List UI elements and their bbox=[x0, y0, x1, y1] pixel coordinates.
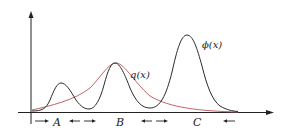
arrow-left-icon bbox=[223, 119, 235, 122]
arrow-left-right-icon bbox=[141, 119, 168, 122]
region-label-c: C bbox=[193, 116, 202, 129]
x-axis-arrowhead-icon bbox=[266, 110, 274, 115]
q-label: q(x) bbox=[130, 69, 150, 80]
arrow-left-right-icon bbox=[69, 119, 96, 122]
arrow-right-icon bbox=[35, 119, 49, 122]
diagram-canvas: ϕ(x) q(x) A B C bbox=[0, 0, 284, 132]
region-label-b: B bbox=[115, 116, 124, 129]
y-axis-arrowhead-icon bbox=[29, 11, 34, 18]
region-label-a: A bbox=[52, 116, 61, 129]
phi-label: ϕ(x) bbox=[202, 39, 222, 50]
